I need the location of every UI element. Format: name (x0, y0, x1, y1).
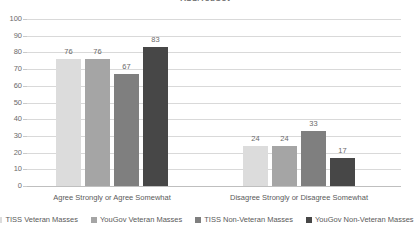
y-axis-tick-mark (23, 119, 27, 120)
legend-label: YouGov Veteran Masses (100, 216, 182, 224)
bar-value-label: 67 (108, 63, 145, 71)
bar[interactable] (243, 146, 268, 186)
bar[interactable] (143, 47, 168, 186)
bar-value-label: 17 (324, 147, 361, 155)
legend-item[interactable]: TISS Non-Veteran Masses (195, 216, 293, 224)
y-axis-tick-label: 20 (0, 149, 22, 157)
gridline (27, 136, 401, 137)
bar[interactable] (114, 74, 139, 186)
y-axis-tick-mark (23, 86, 27, 87)
y-axis-tick-label: 40 (0, 115, 22, 123)
y-axis-tick-label: 100 (0, 15, 22, 23)
gridline (27, 69, 401, 70)
y-axis-tick-label: 80 (0, 48, 22, 56)
y-axis-tick-mark (23, 169, 27, 170)
plot-area: 7676678324243317 (27, 19, 401, 186)
legend-label: TISS Non-Veteran Masses (204, 216, 293, 224)
bar-value-label: 24 (266, 135, 303, 143)
gridline (27, 86, 401, 87)
y-axis-tick-label: 30 (0, 132, 22, 140)
bar[interactable] (301, 131, 326, 186)
y-axis-tick-label: 90 (0, 32, 22, 40)
gridline (27, 36, 401, 37)
chart-legend: TISS Veteran MassesYouGov Veteran Masses… (0, 216, 410, 224)
y-axis-tick-mark (23, 136, 27, 137)
legend-swatch-icon (195, 217, 201, 223)
bar-value-label: 33 (295, 120, 332, 128)
bar[interactable] (56, 59, 81, 186)
y-axis-tick-label: 10 (0, 165, 22, 173)
y-axis-tick-mark (23, 186, 27, 187)
legend-swatch-icon (91, 217, 97, 223)
legend-label: YouGov Non-Veteran Masses (315, 216, 414, 224)
bar-value-label: 76 (79, 48, 116, 56)
legend-swatch-icon (306, 217, 312, 223)
legend-swatch-icon (0, 217, 2, 223)
legend-item[interactable]: YouGov Non-Veteran Masses (306, 216, 414, 224)
y-axis-tick-mark (23, 69, 27, 70)
y-axis-tick-label: 60 (0, 82, 22, 90)
bar[interactable] (330, 158, 355, 186)
y-axis-tick-mark (23, 52, 27, 53)
y-axis-tick-mark (23, 103, 27, 104)
x-axis-category-label: Disagree Strongly or Disagree Somewhat (199, 193, 399, 202)
y-axis-tick-label: 50 (0, 99, 22, 107)
chart-title: TISS/YouGov (0, 0, 410, 2)
y-axis-tick-label: 0 (0, 182, 22, 190)
legend-item[interactable]: TISS Veteran Masses (0, 216, 78, 224)
y-axis-tick-label: 70 (0, 65, 22, 73)
y-axis-tick-mark (23, 19, 27, 20)
bar-value-label: 83 (137, 36, 174, 44)
bar[interactable] (85, 59, 110, 186)
legend-item[interactable]: YouGov Veteran Masses (91, 216, 182, 224)
gridline (27, 19, 401, 20)
gridline (27, 119, 401, 120)
y-axis-tick-mark (23, 36, 27, 37)
legend-label: TISS Veteran Masses (5, 216, 78, 224)
bar[interactable] (272, 146, 297, 186)
gridline (27, 103, 401, 104)
x-axis-category-label: Agree Strongly or Agree Somewhat (12, 193, 212, 202)
y-axis-tick-mark (23, 153, 27, 154)
gridline (27, 186, 401, 187)
